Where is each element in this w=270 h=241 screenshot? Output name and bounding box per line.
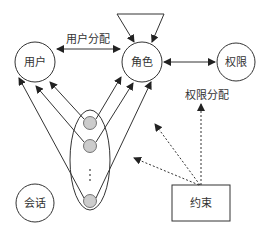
permission-label: 权限 — [225, 56, 247, 69]
user-label: 用户 — [24, 55, 46, 69]
constraint-edges — [134, 104, 201, 185]
session-group — [70, 110, 110, 210]
role-label: 角色 — [131, 55, 153, 69]
session-instance — [84, 195, 97, 208]
role-node: 角色 — [122, 42, 162, 82]
session-label: 会话 — [24, 197, 46, 210]
constraint-label: 约束 — [190, 197, 212, 210]
user-node: 用户 — [15, 42, 55, 82]
ellipsis-dots — [89, 169, 91, 181]
constraint-node: 约束 — [172, 185, 230, 221]
session-node: 会话 — [16, 184, 54, 222]
user-assignment-edge: 用户分配 — [57, 32, 120, 49]
session-user-edges — [19, 78, 84, 198]
permission-assignment-label: 权限分配 — [185, 89, 229, 102]
session-role-edges — [96, 77, 151, 198]
role-hierarchy-loop — [117, 14, 164, 42]
permission-node: 权限 — [217, 43, 255, 81]
rbac-diagram: 用户 角色 权限 用户分配 权限分配 — [0, 0, 270, 241]
user-assignment-label: 用户分配 — [66, 32, 110, 46]
session-instance — [84, 117, 97, 130]
session-instance — [84, 140, 97, 153]
